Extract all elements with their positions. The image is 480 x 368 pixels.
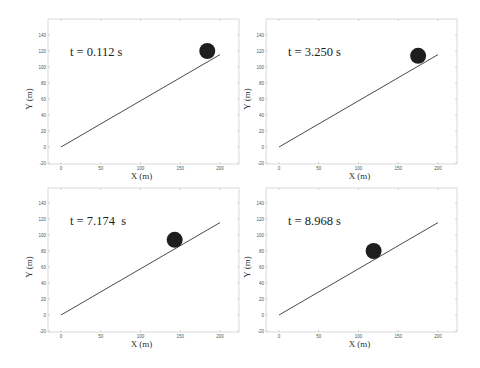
x-tick-label: 50 [98, 166, 104, 171]
x-tick-label: 150 [176, 166, 184, 171]
y-tick-label: 0 [261, 145, 264, 150]
y-tick-label: 40 [41, 281, 47, 286]
time-annotation: t = 8.968 s [288, 214, 341, 228]
x-axis-label: X (m) [349, 339, 371, 349]
y-tick-label: 40 [259, 281, 265, 286]
x-axis-label: X (m) [131, 171, 153, 181]
y-tick-label: 20 [259, 297, 265, 302]
y-tick-label: 120 [38, 49, 46, 54]
y-tick-label: -20 [39, 329, 46, 334]
axes-frame [266, 19, 457, 164]
y-tick-label: 0 [43, 313, 46, 318]
x-tick-label: 0 [278, 166, 281, 171]
y-axis-label: Y (m) [24, 256, 34, 277]
y-tick-label: 120 [38, 217, 46, 222]
y-tick-label: 100 [38, 65, 46, 70]
x-tick-label: 150 [176, 334, 184, 339]
y-tick-label: 80 [41, 249, 47, 254]
y-tick-label: 0 [261, 313, 264, 318]
ball-marker [366, 243, 382, 259]
y-tick-label: 60 [41, 97, 47, 102]
time-annotation: t = 0.112 s [70, 45, 123, 59]
y-tick-label: 120 [256, 217, 264, 222]
x-tick-label: 200 [216, 166, 224, 171]
y-tick-label: 20 [259, 129, 265, 134]
y-tick-label: 100 [38, 233, 46, 238]
y-tick-label: -20 [39, 161, 46, 166]
y-tick-label: 100 [256, 233, 264, 238]
x-tick-label: 0 [278, 334, 281, 339]
x-tick-label: 150 [394, 334, 402, 339]
y-tick-label: 80 [259, 81, 265, 86]
y-tick-label: 140 [38, 201, 46, 206]
y-tick-label: 60 [41, 265, 47, 270]
time-annotation: t = 3.250 s [288, 45, 341, 59]
y-tick-label: 80 [259, 249, 265, 254]
y-tick-label: 60 [259, 97, 265, 102]
y-tick-label: 140 [38, 33, 46, 38]
x-axis-label: X (m) [131, 339, 153, 349]
y-tick-label: 120 [256, 49, 264, 54]
y-tick-label: 140 [256, 33, 264, 38]
subplot-1: 050100150200 -20020406080100120140 t = 0… [24, 19, 239, 181]
x-tick-label: 0 [60, 334, 63, 339]
x-tick-label: 50 [316, 166, 322, 171]
axes-frame [48, 19, 239, 164]
subplot-3: 050100150200 -20020406080100120140 t = 7… [24, 188, 239, 349]
figure: 050100150200 -20020406080100120140 t = 0… [0, 0, 480, 368]
x-axis-label: X (m) [349, 171, 371, 181]
y-axis-label: Y (m) [24, 88, 34, 109]
y-tick-label: 0 [43, 145, 46, 150]
x-tick-label: 50 [316, 334, 322, 339]
y-tick-label: 40 [41, 113, 47, 118]
subplot-2: 050100150200 -20020406080100120140 t = 3… [242, 19, 457, 181]
ball-marker [167, 232, 183, 248]
y-tick-label: 20 [41, 297, 47, 302]
y-tick-label: 100 [256, 65, 264, 70]
axes-frame [266, 188, 457, 332]
subplot-4: 050100150200 -20020406080100120140 t = 8… [242, 188, 457, 349]
y-tick-label: 140 [256, 201, 264, 206]
x-tick-label: 0 [60, 166, 63, 171]
x-tick-label: 50 [98, 334, 104, 339]
y-tick-label: 20 [41, 129, 47, 134]
y-tick-label: -20 [257, 329, 264, 334]
x-tick-label: 200 [434, 166, 442, 171]
time-annotation: t = 7.174 s [70, 214, 126, 228]
x-tick-label: 200 [216, 334, 224, 339]
ball-marker [199, 43, 215, 59]
y-tick-label: 60 [259, 265, 265, 270]
y-axis-label: Y (m) [242, 88, 252, 109]
y-tick-label: 80 [41, 81, 47, 86]
axes-frame [48, 188, 239, 332]
y-axis-label: Y (m) [242, 256, 252, 277]
ball-marker [410, 48, 426, 64]
y-tick-label: 40 [259, 113, 265, 118]
x-tick-label: 200 [434, 334, 442, 339]
y-tick-label: -20 [257, 161, 264, 166]
x-tick-label: 150 [394, 166, 402, 171]
